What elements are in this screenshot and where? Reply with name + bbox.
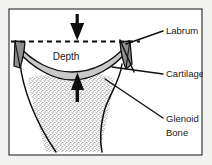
label-cartilage: Cartilage xyxy=(166,68,204,79)
label-glenoid-bone-line1: Glenoid xyxy=(166,113,199,124)
label-glenoid-bone-line2: Bone xyxy=(166,127,188,138)
figure-canvas: Depth Labrum Cartilage Glenoid Bone xyxy=(0,0,212,165)
label-depth: Depth xyxy=(53,51,80,62)
glenoid-depth-figure: Depth Labrum Cartilage Glenoid Bone xyxy=(0,0,212,165)
label-labrum: Labrum xyxy=(166,25,198,36)
